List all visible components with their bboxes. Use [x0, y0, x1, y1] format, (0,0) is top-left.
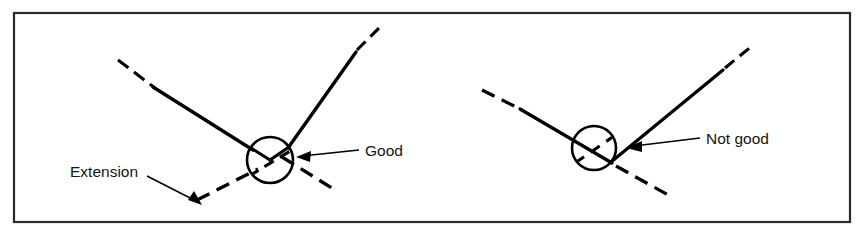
not-good-leader-line — [634, 138, 700, 146]
extension-callout: Extension — [70, 163, 202, 205]
good-upper-right-dashed-tail — [357, 24, 383, 50]
not-good-label: Not good — [706, 130, 769, 147]
good-leader-arrowhead — [296, 151, 311, 162]
good-extension-line — [197, 157, 335, 200]
good-panel: Good Extension — [70, 24, 403, 205]
extension-label: Extension — [70, 163, 138, 180]
figure-frame — [14, 13, 850, 222]
not-good-diagonal-solid — [520, 109, 612, 163]
figure-root: Good Extension — [0, 0, 868, 235]
not-good-panel: Not good — [482, 46, 769, 196]
not-good-diagonal-dashed-continuation — [616, 166, 670, 196]
extension-leader-line — [147, 176, 196, 201]
not-good-diagonal-dashed-tail — [482, 90, 522, 110]
good-inner-extension-stroke — [249, 150, 292, 176]
good-upper-left-solid — [153, 87, 253, 150]
good-upper-right-solid — [288, 52, 356, 148]
good-upper-left-ray — [118, 60, 253, 150]
diagram-canvas: Good Extension — [0, 0, 868, 235]
good-inner-upper-left-stroke — [251, 148, 270, 160]
good-callout: Good — [296, 142, 403, 162]
good-label: Good — [365, 142, 403, 159]
good-inner-marks — [249, 147, 292, 176]
good-upper-right-ray — [288, 24, 383, 148]
good-extension-lower-left-segment — [197, 169, 258, 200]
not-good-upper-right-dashed-tail — [725, 46, 752, 68]
good-upper-left-dashed-tail — [118, 60, 155, 88]
